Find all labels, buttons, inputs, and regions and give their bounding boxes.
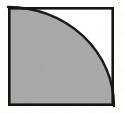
quarter-circle-figure: Quarter circle inscribed in a square A s… (0, 0, 124, 113)
figure-canvas: Quarter circle inscribed in a square A s… (0, 0, 124, 113)
